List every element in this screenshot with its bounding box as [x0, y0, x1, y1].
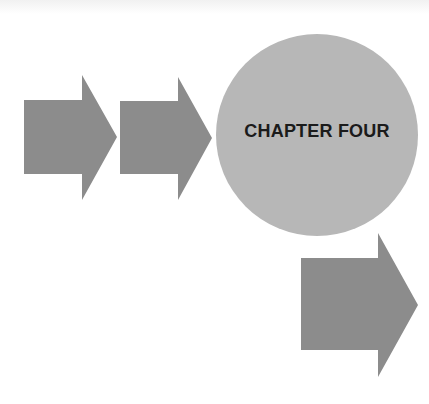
diagram-canvas: [0, 0, 429, 404]
right-arrow-icon: [24, 75, 117, 200]
right-arrow-icon: [301, 233, 418, 377]
chapter-title: CHAPTER FOUR: [217, 121, 417, 142]
right-arrow-icon: [120, 77, 212, 200]
